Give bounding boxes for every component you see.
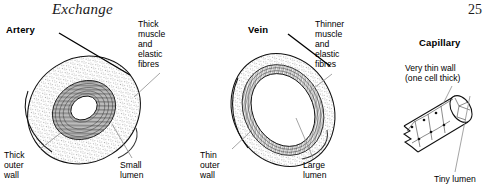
label-artery-outer-wall: Thick outer wall: [4, 150, 25, 180]
label-vein-lumen: Large lumen: [303, 160, 326, 180]
textbook-page: Exchange 25: [0, 0, 490, 192]
artery-muscle-leader: [134, 73, 160, 97]
label-capillary-wall: Very thin wall (one cell thick): [405, 63, 460, 83]
label-artery-muscle: Thick muscle and elastic fibres: [138, 19, 165, 69]
label-artery-lumen: Small lumen: [120, 160, 143, 180]
capillary-drawing: [404, 92, 477, 152]
label-capillary-lumen: Tiny lumen: [434, 174, 476, 184]
label-vein-outer-wall: Thin outer wall: [200, 150, 220, 180]
vessel-heading-artery: Artery: [6, 24, 35, 35]
vessel-heading-capillary: Capillary: [419, 37, 460, 48]
vessel-heading-vein: Vein: [248, 24, 268, 35]
label-vein-muscle: Thinner muscle and elastic fibres: [315, 19, 344, 69]
blood-vessel-diagram: [0, 0, 490, 192]
